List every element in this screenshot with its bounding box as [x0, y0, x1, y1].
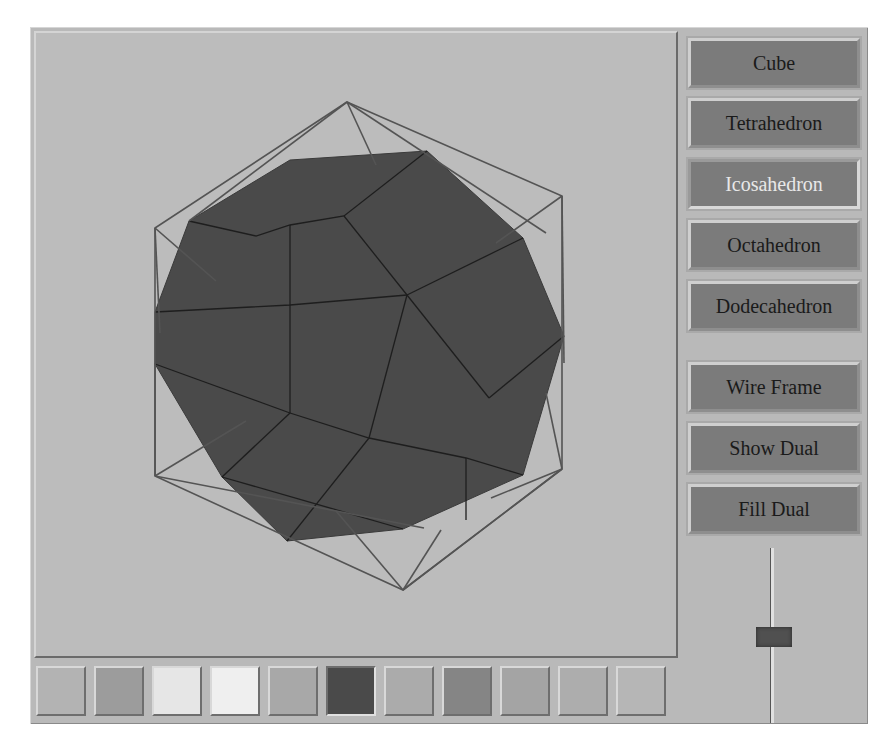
3d-viewport-canvas[interactable] [34, 31, 678, 658]
color-swatch-10[interactable] [558, 666, 608, 716]
color-swatch-5[interactable] [268, 666, 318, 716]
color-swatch-6-selected[interactable] [326, 666, 376, 716]
dodecahedron-solid [155, 151, 564, 541]
color-swatch-1[interactable] [36, 666, 86, 716]
color-palette [34, 660, 678, 722]
color-swatch-2[interactable] [94, 666, 144, 716]
wire-frame-button[interactable]: Wire Frame [688, 362, 860, 412]
fill-dual-button[interactable]: Fill Dual [688, 484, 860, 534]
color-swatch-8[interactable] [442, 666, 492, 716]
color-swatch-4[interactable] [210, 666, 260, 716]
color-swatch-7[interactable] [384, 666, 434, 716]
tetrahedron-button[interactable]: Tetrahedron [688, 98, 860, 148]
color-swatch-9[interactable] [500, 666, 550, 716]
icosahedron-button[interactable]: Icosahedron [688, 159, 860, 209]
zoom-slider-thumb[interactable] [756, 627, 792, 647]
show-dual-button[interactable]: Show Dual [688, 423, 860, 473]
cube-button[interactable]: Cube [688, 38, 860, 88]
octahedron-button[interactable]: Octahedron [688, 220, 860, 270]
dodecahedron-button[interactable]: Dodecahedron [688, 281, 860, 331]
color-swatch-3[interactable] [152, 666, 202, 716]
polyhedron-render [36, 33, 680, 660]
control-panel: Cube Tetrahedron Icosahedron Octahedron … [682, 31, 866, 721]
polyhedra-app-window: Cube Tetrahedron Icosahedron Octahedron … [30, 27, 868, 724]
color-swatch-11[interactable] [616, 666, 666, 716]
